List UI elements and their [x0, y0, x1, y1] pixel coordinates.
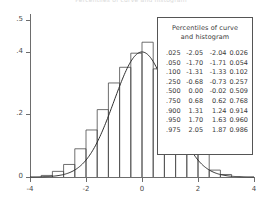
histogram-cumulative: 0.102: [227, 68, 249, 78]
curve-quantile: 1.70: [181, 116, 203, 126]
histogram-bar: [75, 149, 86, 177]
histogram-bar: [131, 53, 142, 177]
histogram-cumulative: 0.509: [227, 87, 249, 97]
percentile-value: .050: [162, 59, 181, 69]
percentile-legend-box: Percentiles of curve and histogram .025-…: [157, 17, 253, 155]
histogram-quantile: 1.63: [203, 116, 226, 126]
histogram-cumulative: 0.054: [227, 59, 249, 69]
percentile-value: .950: [162, 116, 181, 126]
curve-quantile: -1.70: [181, 59, 203, 69]
legend-header-line2: and histogram: [162, 33, 248, 42]
percentile-row: .050-1.70-1.710.054: [162, 59, 248, 69]
histogram-quantile: -1.71: [203, 59, 226, 69]
curve-quantile: 0.68: [181, 97, 203, 107]
percentile-row: .9752.051.870.986: [162, 126, 248, 136]
histogram-cumulative: 0.914: [227, 107, 249, 117]
percentile-value: .500: [162, 87, 181, 97]
percentile-row: .025-2.05-2.040.026: [162, 49, 248, 59]
histogram-quantile: -0.02: [203, 87, 226, 97]
histogram-quantile: 1.87: [203, 126, 226, 136]
percentile-row: .9001.311.240.914: [162, 107, 248, 117]
histogram-quantile: -0.73: [203, 78, 226, 88]
curve-quantile: -1.31: [181, 68, 203, 78]
histogram-cumulative: 0.257: [227, 78, 249, 88]
histogram-quantile: 1.24: [203, 107, 226, 117]
percentile-rows: .025-2.05-2.040.026.050-1.70-1.710.054.1…: [162, 49, 248, 135]
percentile-row: .7500.680.620.768: [162, 97, 248, 107]
percentile-value: .900: [162, 107, 181, 117]
curve-quantile: 0.00: [181, 87, 203, 97]
percentile-row: .5000.00-0.020.509: [162, 87, 248, 97]
histogram-quantile: 0.62: [203, 97, 226, 107]
histogram-quantile: -2.04: [203, 49, 226, 59]
legend-header-line1: Percentiles of curve: [162, 24, 248, 33]
histogram-bar: [142, 42, 153, 177]
percentile-value: .750: [162, 97, 181, 107]
histogram-bar: [86, 130, 97, 177]
curve-quantile: 1.31: [181, 107, 203, 117]
curve-quantile: -0.68: [181, 78, 203, 88]
histogram-cumulative: 0.768: [227, 97, 249, 107]
percentile-row: .100-1.31-1.330.102: [162, 68, 248, 78]
percentile-value: .100: [162, 68, 181, 78]
histogram-cumulative: 0.986: [227, 126, 249, 136]
histogram-bar: [120, 67, 131, 177]
chart-figure: Percentiles of curve and histogram 0.2.4…: [0, 0, 262, 216]
histogram-bar: [108, 83, 119, 177]
percentile-value: .250: [162, 78, 181, 88]
percentile-value: .975: [162, 126, 181, 136]
histogram-cumulative: 0.960: [227, 116, 249, 126]
curve-quantile: 2.05: [181, 126, 203, 136]
percentile-value: .025: [162, 49, 181, 59]
histogram-cumulative: 0.026: [227, 49, 249, 59]
percentile-row: .9501.701.630.960: [162, 116, 248, 126]
histogram-quantile: -1.33: [203, 68, 226, 78]
curve-quantile: -2.05: [181, 49, 203, 59]
percentile-row: .250-0.68-0.730.257: [162, 78, 248, 88]
